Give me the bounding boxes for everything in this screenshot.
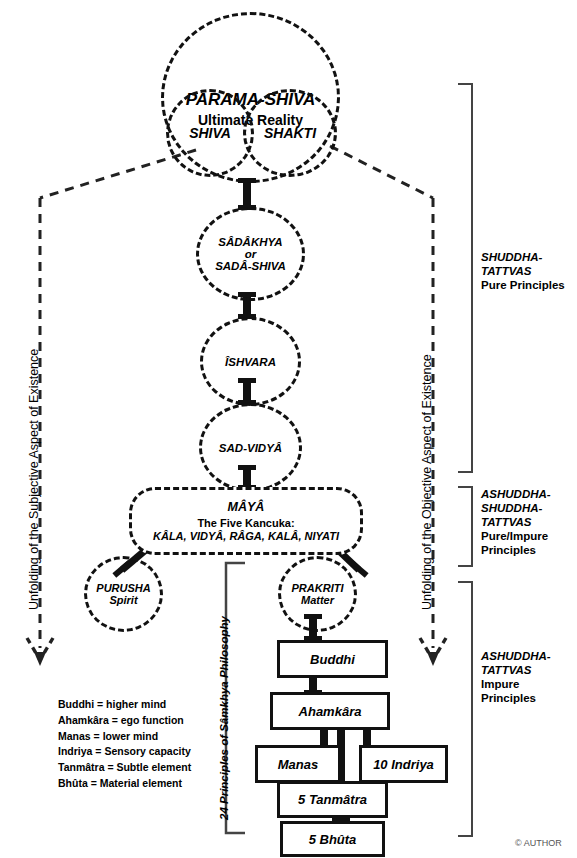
- box-buddhi-label: Buddhi: [310, 652, 355, 667]
- box-manas-label: Manas: [278, 757, 318, 772]
- ishvara-circle: ÎSHVARA: [200, 317, 301, 406]
- shuddha-title-2: TATTVAS: [481, 264, 565, 278]
- sad-vidya-circle: SAD-VIDYÂ: [199, 403, 302, 492]
- box-tanmatra: 5 Tanmâtra: [277, 781, 388, 818]
- shiva-circle: SHIVA: [166, 89, 254, 177]
- maya-kancuka-heading: The Five Kancuka:: [197, 517, 294, 529]
- box-buddhi: Buddhi: [277, 640, 388, 678]
- box-tanmatra-label: 5 Tanmâtra: [298, 792, 367, 807]
- sadakhya-line1: SÂDÂKHYA: [218, 236, 282, 248]
- ashuddha-shuddha-title-1: ASHUDDHA-: [481, 487, 551, 501]
- copyright-notice: © AUTHOR: [515, 838, 562, 848]
- box-indriya: 10 Indriya: [359, 745, 448, 783]
- box-manas: Manas: [255, 745, 341, 783]
- ashuddha-shuddha-subtitle-2: Principles: [481, 543, 551, 557]
- prakriti-label: PRAKRITI: [292, 582, 344, 594]
- maya-title: MÂYÂ: [228, 500, 265, 514]
- maya-kancuka-list: KÂLA, VIDYÂ, RÂGA, KALÂ, NIYATI: [153, 530, 339, 542]
- ashuddha-subtitle-2: Principles: [481, 691, 551, 705]
- group-caption-ashuddha: ASHUDDHA- TATTVAS Impure Principles: [481, 649, 551, 705]
- sadakhya-circle: SÂDÂKHYA or SADÂ-SHIVA: [196, 207, 305, 301]
- ashuddha-title-2: TATTVAS: [481, 663, 551, 677]
- samkhya-bracket-label: 24 Principles of Sâmkhya Philosophy: [218, 616, 230, 820]
- sadakhya-line3: SADÂ-SHIVA: [215, 260, 286, 272]
- prakriti-circle: PRAKRITI Matter: [278, 556, 357, 632]
- box-indriya-label: 10 Indriya: [373, 757, 434, 772]
- maya-box: MÂYÂ The Five Kancuka: KÂLA, VIDYÂ, RÂGA…: [129, 487, 363, 555]
- ashuddha-title-1: ASHUDDHA-: [481, 649, 551, 663]
- purusha-label: PURUSHA: [96, 582, 150, 594]
- shuddha-title-1: SHUDDHA-: [481, 250, 565, 264]
- purusha-sublabel: Spirit: [109, 594, 137, 606]
- shakti-circle: SHAKTI: [243, 89, 337, 177]
- legend-block: Buddhi = higher mind Ahamkâra = ego func…: [58, 697, 191, 792]
- left-axis-label: Unfolding of the Subjective Aspect of Ex…: [27, 349, 41, 610]
- box-bhuta: 5 Bhûta: [280, 821, 385, 857]
- box-ahamkara: Ahamkâra: [270, 692, 390, 730]
- group-caption-shuddha: SHUDDHA- TATTVAS Pure Principles: [481, 250, 565, 292]
- box-bhuta-label: 5 Bhûta: [309, 832, 357, 847]
- box-ahamkara-label: Ahamkâra: [299, 704, 362, 719]
- shiva-label: SHIVA: [189, 125, 231, 141]
- shakti-label: SHAKTI: [264, 125, 316, 141]
- ashuddha-shuddha-subtitle-1: Pure/Impure: [481, 529, 551, 543]
- purusha-circle: PURUSHA Spirit: [84, 556, 163, 632]
- sad-vidya-label: SAD-VIDYÂ: [219, 442, 282, 454]
- ashuddha-subtitle-1: Impure: [481, 677, 551, 691]
- ashuddha-shuddha-title-3: TATTVAS: [481, 515, 551, 529]
- ishvara-label: ÎSHVARA: [225, 356, 276, 368]
- diagram-canvas: PARAMA-SHIVA Ultimate Reality SHIVA SHAK…: [0, 0, 577, 858]
- prakriti-sublabel: Matter: [301, 594, 334, 606]
- group-caption-ashuddha-shuddha: ASHUDDHA- SHUDDHA- TATTVAS Pure/Impure P…: [481, 487, 551, 557]
- right-axis-label: Unfolding of the Objective Aspect of Exi…: [420, 354, 434, 610]
- shuddha-subtitle: Pure Principles: [481, 278, 565, 292]
- ashuddha-shuddha-title-2: SHUDDHA-: [481, 501, 551, 515]
- sadakhya-line2: or: [245, 248, 257, 260]
